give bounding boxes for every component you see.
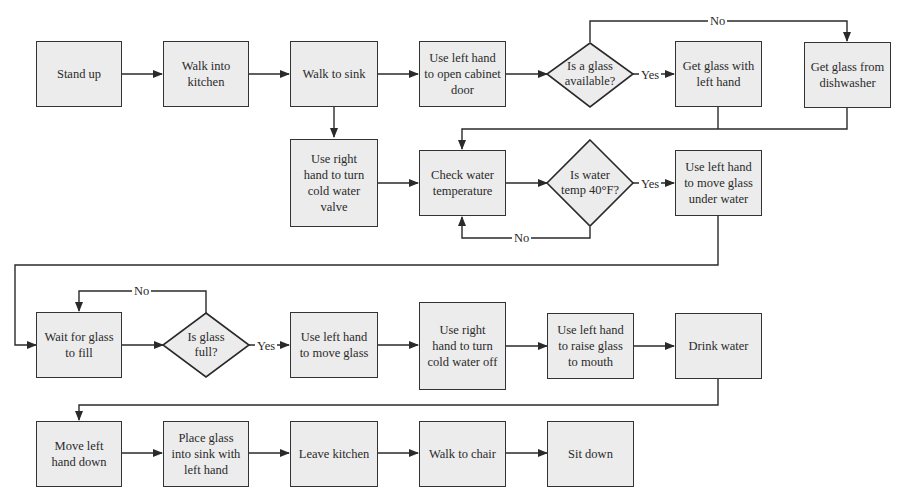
node-get-glass-left-hand: Get glass with left hand [675, 41, 762, 107]
node-open-cabinet: Use left hand to open cabinet door [419, 41, 506, 107]
node-label: Use left hand to move glass under water [680, 159, 757, 207]
node-label: Use left hand to open cabinet door [424, 50, 501, 98]
node-label: Move left hand down [47, 438, 111, 470]
arrow-drink-to-movehand [79, 379, 718, 420]
node-label: Drink water [688, 338, 748, 354]
node-label: Is a glass available? [560, 59, 620, 89]
node-check-temperature: Check water temperature [419, 150, 506, 216]
decision-glass-available-label: Is a glass available? [553, 58, 627, 90]
edge-label-temp-yes: Yes [639, 177, 661, 191]
node-label: Use left hand to raise glass to mouth [553, 322, 629, 370]
decision-water-temp-label: Is water temp 40°F? [553, 167, 627, 199]
node-label: Is water temp 40°F? [558, 168, 622, 198]
node-get-glass-dishwasher: Get glass from dishwasher [804, 42, 891, 108]
node-raise-glass: Use left hand to raise glass to mouth [547, 313, 634, 379]
node-label: Sit down [568, 446, 613, 462]
node-label: Stand up [57, 66, 101, 82]
node-label: Walk to sink [303, 66, 366, 82]
node-label: Place glass into sink with left hand [168, 430, 244, 478]
node-label: Use right hand to turn cold water off [428, 322, 498, 370]
edge-label-glass-no: No [708, 14, 727, 28]
decision-glass-full-label: Is glass full? [172, 329, 240, 361]
edge-label-glass-yes: Yes [639, 68, 661, 82]
node-stand-up: Stand up [36, 41, 122, 107]
node-place-glass: Place glass into sink with left hand [163, 421, 249, 487]
node-label: Get glass with left hand [680, 58, 757, 90]
node-walk-to-sink: Walk to sink [290, 41, 378, 107]
node-move-glass-under-water: Use left hand to move glass under water [675, 150, 762, 216]
node-label: Use left hand to move glass [295, 329, 373, 361]
node-label: Use right hand to turn cold water valve [299, 151, 369, 215]
node-move-glass: Use left hand to move glass [290, 312, 378, 378]
node-label: Walk into kitchen [176, 58, 236, 90]
node-wait-for-fill: Wait for glass to fill [36, 312, 122, 378]
node-drink-water: Drink water [675, 313, 762, 379]
edge-label-temp-no: No [512, 231, 531, 245]
node-turn-valve: Use right hand to turn cold water valve [290, 139, 378, 227]
arrow-dishwasher-to-check [462, 108, 847, 149]
node-label: Walk to chair [429, 446, 496, 462]
node-turn-water-off: Use right hand to turn cold water off [419, 302, 506, 390]
node-label: Is glass full? [184, 330, 228, 360]
node-label: Check water temperature [424, 167, 501, 199]
node-leave-kitchen: Leave kitchen [290, 421, 378, 487]
node-walk-to-chair: Walk to chair [419, 421, 506, 487]
node-walk-into-kitchen: Walk into kitchen [163, 41, 249, 107]
edge-label-full-no: No [132, 284, 151, 298]
node-label: Get glass from dishwasher [809, 59, 886, 91]
node-label: Wait for glass to fill [41, 329, 117, 361]
node-label: Leave kitchen [299, 446, 369, 462]
node-move-hand-down: Move left hand down [36, 421, 122, 487]
node-sit-down: Sit down [547, 421, 634, 487]
edge-label-full-yes: Yes [255, 339, 277, 353]
